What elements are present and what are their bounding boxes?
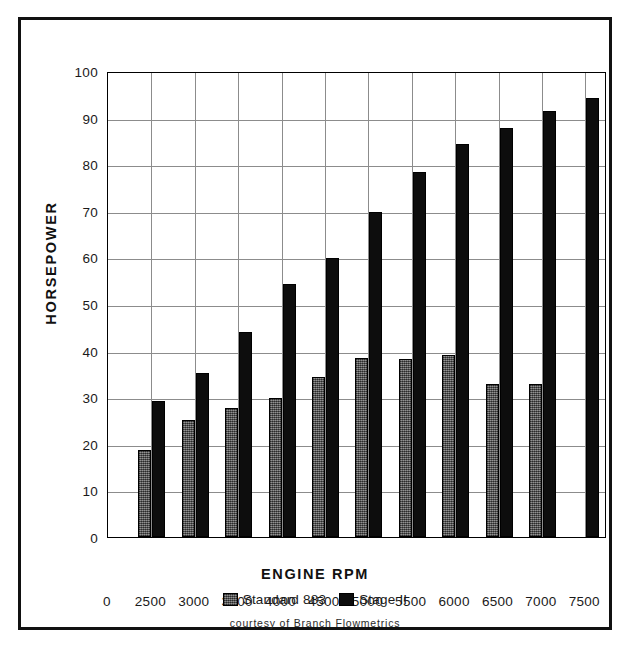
x-axis-title: ENGINE RPM <box>21 566 609 582</box>
y-axis-tick-label: 30 <box>82 391 98 406</box>
legend-item-label: Stage II <box>359 592 407 607</box>
bar-standard-883-5500 <box>399 359 412 537</box>
y-axis-tick-label: 80 <box>82 158 98 173</box>
bar-standard-883-2500 <box>138 450 151 537</box>
y-axis-tick-label: 20 <box>82 437 98 452</box>
bar-stage-ii-4500 <box>326 258 339 537</box>
bar-standard-883-7000 <box>529 384 542 537</box>
bar-standard-883-3000 <box>182 420 195 537</box>
y-axis-tick-label: 0 <box>90 531 98 546</box>
bar-standard-883-4500 <box>312 377 325 537</box>
bar-standard-883-6000 <box>442 355 455 537</box>
y-axis-tick-label: 60 <box>82 251 98 266</box>
credit-caption: courtesy of Branch Flowmetrics <box>21 617 609 629</box>
bar-stage-ii-6500 <box>500 128 513 537</box>
y-axis-tick-label: 50 <box>82 298 98 313</box>
bar-series-container <box>108 73 605 537</box>
legend-item-standard-883: Standard 883 <box>223 592 326 607</box>
bar-standard-883-6500 <box>486 384 499 537</box>
y-axis-tick-label: 90 <box>82 111 98 126</box>
bar-standard-883-5000 <box>355 358 368 537</box>
legend-item-stage-ii: Stage II <box>339 592 407 607</box>
chart-frame: 0102030405060708090100 02500300035004000… <box>18 17 612 630</box>
y-axis-tick-label: 10 <box>82 484 98 499</box>
bar-stage-ii-5500 <box>413 172 426 537</box>
gray-hatched-swatch-icon <box>223 593 238 606</box>
plot-area <box>107 72 606 538</box>
bar-stage-ii-6000 <box>456 144 469 537</box>
plot-area-wrapper: 0102030405060708090100 02500300035004000… <box>107 72 606 538</box>
y-axis-tick-label: 100 <box>75 65 98 80</box>
bar-stage-ii-2500 <box>152 401 165 537</box>
black-swatch-icon <box>339 593 354 606</box>
bar-stage-ii-4000 <box>283 284 296 537</box>
bar-standard-883-3500 <box>225 408 238 537</box>
bar-stage-ii-3500 <box>239 332 252 537</box>
bar-stage-ii-7000 <box>543 111 556 537</box>
bar-stage-ii-5000 <box>369 212 382 537</box>
bar-standard-883-4000 <box>269 398 282 537</box>
y-axis-title: HORSEPOWER <box>43 201 59 324</box>
bar-stage-ii-7500 <box>586 98 599 537</box>
legend-item-label: Standard 883 <box>243 592 326 607</box>
y-axis-tick-label: 40 <box>82 344 98 359</box>
y-axis-tick-label: 70 <box>82 204 98 219</box>
chart-legend: Standard 883 Stage II <box>21 592 609 607</box>
bar-stage-ii-3000 <box>196 373 209 537</box>
